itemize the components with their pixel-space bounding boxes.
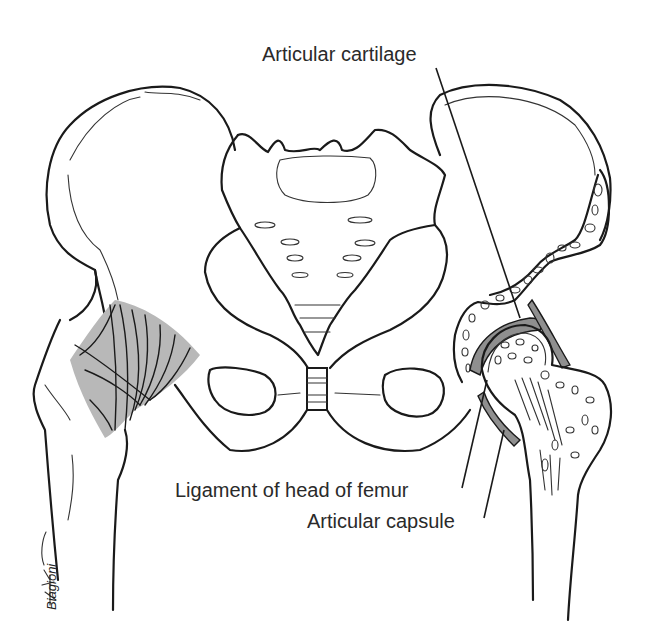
pelvic-brim: [205, 225, 447, 368]
pubis: [175, 368, 470, 451]
leader-articular-cartilage: [436, 68, 520, 318]
label-articular-cartilage: Articular cartilage: [262, 44, 417, 64]
signature-text: Biagioni: [44, 564, 59, 610]
sacrum: [222, 130, 445, 355]
leader-articular-capsule: [484, 430, 504, 518]
gluteal-muscle-shaded: [70, 300, 200, 438]
right-femur: [482, 325, 611, 620]
anatomy-drawing: [0, 0, 650, 644]
hip-joint-diagram: Articular cartilage Ligament of head of …: [0, 0, 650, 644]
leader-lines: [436, 68, 520, 518]
right-ilium: [431, 85, 611, 240]
label-articular-capsule: Articular capsule: [307, 511, 455, 531]
leader-ligament-head-femur: [462, 380, 487, 488]
label-ligament-head-femur: Ligament of head of femur: [175, 480, 408, 500]
